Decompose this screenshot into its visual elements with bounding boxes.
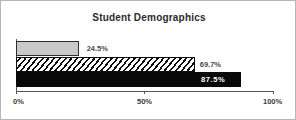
chart-title: Student Demographics [1,12,296,23]
bar-1-value-label: 24.5% [87,45,108,53]
bar-row-3: 87.5% [16,72,273,87]
x-axis-tick-label-2: 100% [263,97,282,106]
x-axis-tick-label-1: 50% [137,97,152,106]
bar-row-2: 69.7% [16,57,273,72]
bar-3-value-label: 87.5% [201,76,225,84]
x-axis-tick-0 [16,91,17,94]
plot-area: 24.5% 69.7% 87.5% [16,39,273,91]
bar-2-value-label: 69.7% [200,61,221,69]
x-axis-tick-1 [144,91,145,94]
bar-2[interactable] [16,57,195,72]
chart-container: Student Demographics 24.5% 69.7% 87.5% 0… [0,0,296,120]
bar-1[interactable] [16,41,79,56]
x-axis-tick-label-0: 0% [13,97,24,106]
x-axis-spine [16,91,274,92]
x-axis-tick-2 [273,91,274,94]
bar-row-1: 24.5% [16,41,273,56]
